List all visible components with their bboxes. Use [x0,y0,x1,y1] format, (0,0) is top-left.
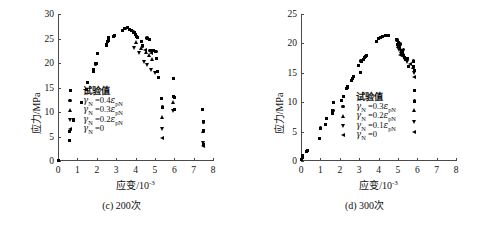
data-point [156,70,159,73]
x-tick-label: 8 [211,165,216,175]
data-point [140,40,143,43]
y-tick [301,14,304,15]
data-point [150,57,154,61]
data-point [412,59,415,62]
y-tick-label: 20 [45,58,55,68]
legend-marker-triangle-down-icon [68,118,72,122]
data-point [154,50,157,53]
x-tick [97,158,98,161]
data-point [149,51,153,55]
x-tick [77,158,78,161]
data-point [107,36,110,39]
y-tick [301,73,304,74]
x-tick-label: 3 [357,165,362,175]
y-tick [58,63,61,64]
data-point [171,100,175,104]
legend-marker-circle-icon [68,99,71,102]
data-point [359,59,362,62]
data-point [301,154,304,157]
data-point [160,127,164,131]
y-tick [58,112,61,113]
x-tick [437,158,438,161]
x-tick-label: 6 [172,165,177,175]
y-tick-label: 15 [288,68,298,78]
data-point [340,99,343,102]
chart-panel-c: 012345678051015202530 试验值γN =0.4εpNγN =0… [0,0,243,225]
data-point [398,53,402,57]
data-point [68,139,71,142]
x-tick [136,158,137,161]
y-tick-label: 20 [288,38,298,48]
y-axis-label-d: 应力/MPa [271,70,286,156]
x-tick-label: 3 [114,165,119,175]
x-tick-label: 6 [415,165,420,175]
data-point [153,71,157,75]
data-point [387,34,390,37]
x-tick-label: 4 [133,165,138,175]
data-point [324,123,327,126]
data-point [375,40,378,43]
data-point [319,126,322,129]
legend-marker-triangle-down-icon [341,124,345,128]
x-tick [379,158,380,161]
chart-panel-d: 0123456780510152025 试验值γN =0.3εpNγN =0.2… [243,0,486,225]
y-tick [301,161,304,162]
y-tick-label: 10 [288,97,298,107]
data-point [332,101,335,104]
data-point [172,77,175,80]
x-tick [340,158,341,161]
y-tick [58,14,61,15]
x-tick [398,158,399,161]
data-point [201,144,205,148]
data-point [408,62,412,66]
x-tick-label: 8 [454,165,459,175]
data-point [202,120,205,123]
x-tick [174,158,175,161]
y-tick-label: 25 [288,9,298,19]
data-point [413,99,416,102]
legend-marker-square-icon [69,89,72,92]
data-point [331,109,334,112]
x-tick [116,158,117,161]
legend-marker-triangle-left-icon [341,133,345,137]
x-tick-label: 5 [396,165,401,175]
data-point [325,117,328,120]
x-tick [359,158,360,161]
y-tick [58,88,61,89]
legend-label: γN =0 [83,124,104,136]
plot-area-c: 012345678051015202530 试验值γN =0.4εpNγN =0… [58,14,213,161]
y-axis-line-d [301,14,302,161]
legend-marker-square-icon [342,95,345,98]
x-axis-label-c: 应变/10-3 [58,177,213,192]
data-point [57,159,60,162]
x-tick [194,158,195,161]
data-point [92,68,95,71]
y-tick [58,39,61,40]
data-point [86,81,89,84]
legend-marker-triangle-up-icon [341,114,345,118]
x-tick-label: 0 [299,165,304,175]
y-tick-label: 15 [45,83,55,93]
legend-marker-triangle-left-icon [68,127,72,131]
data-point [412,120,416,124]
data-point [145,63,149,67]
x-tick [320,158,321,161]
data-point [411,65,415,69]
x-tick-label: 1 [318,165,323,175]
y-tick [301,43,304,44]
data-point [357,64,360,67]
x-tick-label: 2 [94,165,99,175]
data-point [145,36,148,39]
data-point [107,39,110,42]
y-tick-label: 0 [292,156,297,166]
data-point [123,27,126,30]
data-point [173,96,176,99]
data-point [412,130,416,134]
y-tick [58,137,61,138]
data-point [134,40,138,44]
x-tick-label: 1 [75,165,80,175]
x-tick [456,158,457,161]
legend-label: γN =0 [356,130,377,142]
legend-marker-circle-icon [341,105,344,108]
data-point [318,137,321,140]
